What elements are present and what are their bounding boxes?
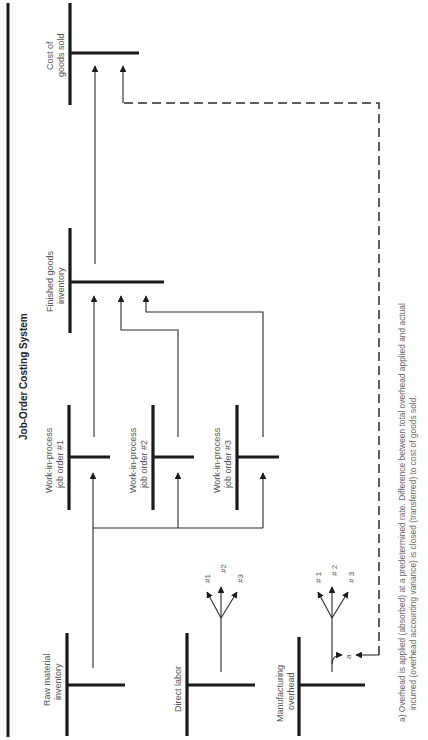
svg-text:job order #1: job order #1 [55,440,65,489]
t-account-finished-goods-inventory: Finished goods inventory [45,228,164,333]
svg-text:a) Overhead is applied (absorb: a) Overhead is applied (absorbed) at a p… [397,303,407,722]
svg-text:inventory: inventory [53,663,63,700]
svg-text:Raw material: Raw material [42,653,52,706]
t-account-cost-of-goods-sold: Cost of goods sold [45,3,139,105]
t-account-wip-job-2: Work-in-process job order #2 [128,405,194,510]
svg-text:# 2: # 2 [330,564,339,576]
svg-text:Direct labor: Direct labor [173,666,183,712]
t-account-wip-job-3: Work-in-process job order #3 [212,405,279,510]
t-account-wip-job-1: Work-in-process job order #1 [44,405,110,510]
t-account-raw-material-inventory: Raw material inventory [42,633,125,736]
svg-text:#1: #1 [203,574,212,583]
overhead-distribution-fan: # 1 # 2 # 3 a [314,564,356,672]
svg-text:Work-in-process: Work-in-process [128,427,138,493]
t-account-direct-labor: Direct labor [173,633,255,736]
svg-text:Work-in-process: Work-in-process [44,427,54,493]
svg-text:job order #2: job order #2 [139,440,149,489]
svg-text:#3: #3 [236,574,245,583]
svg-text:Cost of: Cost of [45,41,55,70]
diagram-title: Job-Order Costing System [18,313,29,440]
svg-text:#2: #2 [219,564,228,573]
direct-labor-distribution-fan: #1 #2 #3 [203,564,245,672]
svg-text:inventory: inventory [56,267,66,304]
job-order-costing-diagram: Job-Order Costing System Cost of goods s… [0,0,428,740]
svg-text:incurred (overhead accounting: incurred (overhead accounting variance) … [408,395,418,710]
svg-text:goods sold: goods sold [56,33,66,77]
t-account-manufacturing-overhead: Manufacturing overhead [275,637,365,736]
svg-text:job order #3: job order #3 [223,440,233,489]
svg-text:Work-in-process: Work-in-process [212,427,222,493]
svg-text:overhead: overhead [286,672,296,710]
svg-text:Manufacturing: Manufacturing [275,665,285,722]
footnote: a) Overhead is applied (absorbed) at a p… [397,303,418,722]
overhead-variance-to-cogs-flow [123,66,379,655]
svg-text:# 1: # 1 [314,571,323,583]
footnote-marker-a: a [344,654,353,659]
svg-text:Finished goods: Finished goods [45,250,55,312]
svg-text:# 3: # 3 [347,571,356,583]
